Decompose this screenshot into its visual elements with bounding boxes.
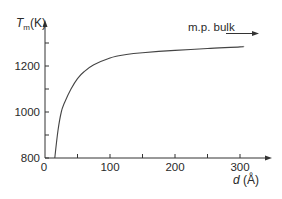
y-tick-label: 1000 [14, 106, 40, 118]
x-tick-label: 300 [230, 161, 249, 173]
x-tick-label: 0 [41, 161, 47, 173]
y-tick-label: 800 [21, 152, 40, 164]
bulk-melting-point-label: m.p. bulk [188, 21, 235, 33]
bulk-arrow-icon [252, 31, 259, 36]
x-axis-arrow-icon [265, 156, 272, 161]
y-ticks: 80010001200 [14, 43, 49, 164]
x-tick-label: 100 [100, 161, 119, 173]
y-axis-label: Tm(K) [16, 16, 46, 32]
data-curve [55, 46, 244, 158]
melting-point-chart: 80010001200 0100200300 Tm(K) d (Å) m.p. … [0, 0, 282, 199]
x-ticks: 0100200300 [41, 154, 250, 173]
x-axis-label: d (Å) [233, 172, 259, 187]
y-tick-label: 1200 [14, 60, 40, 72]
x-tick-label: 200 [165, 161, 184, 173]
